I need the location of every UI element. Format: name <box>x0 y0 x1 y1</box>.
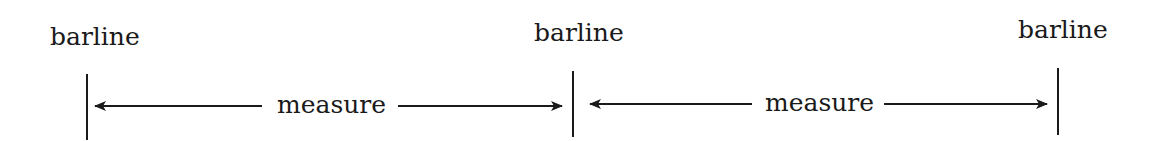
barline-label-3: barline <box>1018 17 1108 42</box>
barline-label-2: barline <box>534 20 624 45</box>
measure-label-1: measure <box>277 92 386 117</box>
measure-label-2: measure <box>765 90 874 115</box>
barline-label-1: barline <box>50 24 140 49</box>
